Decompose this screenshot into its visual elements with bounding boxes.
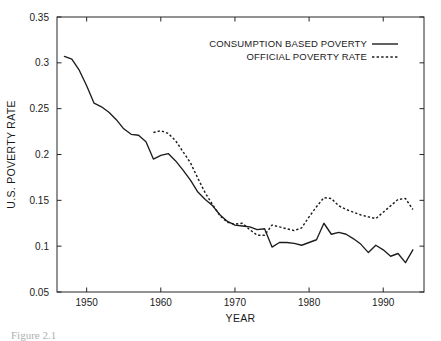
y-axis-tick-label: 0.3 — [35, 57, 49, 68]
y-axis-tick-label: 0.35 — [30, 12, 50, 23]
y-axis-tick-label: 0.1 — [35, 241, 49, 252]
legend-label-1: OFFICIAL POVERTY RATE — [246, 51, 367, 62]
legend-label-0: CONSUMPTION BASED POVERTY — [209, 38, 367, 49]
x-axis-tick-label: 1990 — [372, 297, 395, 308]
plot-frame — [57, 17, 424, 292]
y-axis-tick-label: 0.25 — [30, 103, 50, 114]
chart-legend: CONSUMPTION BASED POVERTYOFFICIAL POVERT… — [209, 38, 398, 62]
y-axis-tick-label: 0.15 — [30, 195, 50, 206]
x-axis-tick-label: 1950 — [76, 297, 99, 308]
x-axis-title: YEAR — [226, 312, 256, 324]
x-axis-tick-label: 1970 — [224, 297, 247, 308]
figure-caption: Figure 2.1 — [11, 329, 56, 341]
y-axis-title: U.S. POVERTY RATE — [5, 100, 17, 208]
y-axis-tick-label: 0.2 — [35, 149, 49, 160]
y-axis-tick-label: 0.05 — [30, 287, 50, 298]
series-line-consumption — [64, 56, 412, 262]
x-axis-tick-label: 1980 — [298, 297, 321, 308]
chart-series — [64, 56, 412, 262]
x-axis-tick-label: 1960 — [150, 297, 173, 308]
